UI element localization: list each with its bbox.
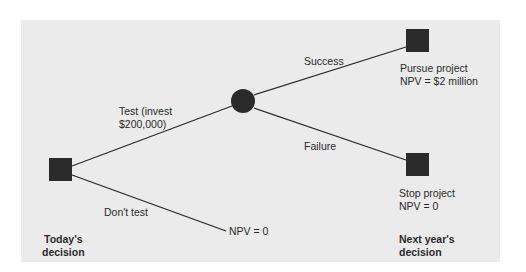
today-caption-line2: decision [42, 246, 85, 259]
pursue-decision-node [406, 29, 429, 52]
stop-label-line1: Stop project [399, 187, 455, 200]
next-caption-line2: decision [399, 246, 455, 259]
today-decision-node [49, 158, 72, 181]
success-label: Success [304, 55, 344, 68]
failure-label: Failure [304, 140, 336, 153]
today-caption-line1: Today's [42, 233, 85, 246]
next-caption-line1: Next year's [399, 233, 455, 246]
today-decision-caption: Today's decision [42, 233, 85, 259]
next-year-decision-caption: Next year's decision [399, 233, 455, 259]
stop-label-line2: NPV = 0 [399, 200, 455, 213]
pursue-label-line1: Pursue project [400, 62, 478, 75]
dont-test-label: Don't test [104, 206, 148, 219]
pursue-label-line2: NPV = $2 million [400, 75, 478, 88]
dont-test-outcome: NPV = 0 [229, 225, 268, 238]
chance-node [231, 89, 255, 113]
stop-label: Stop project NPV = 0 [399, 187, 455, 213]
stop-decision-node [406, 153, 429, 176]
branch-dont-test [72, 175, 226, 231]
test-label-line1: Test (invest [119, 105, 172, 118]
test-label-line2: $200,000) [119, 118, 172, 131]
test-branch-label: Test (invest $200,000) [119, 105, 172, 131]
pursue-label: Pursue project NPV = $2 million [400, 62, 478, 88]
